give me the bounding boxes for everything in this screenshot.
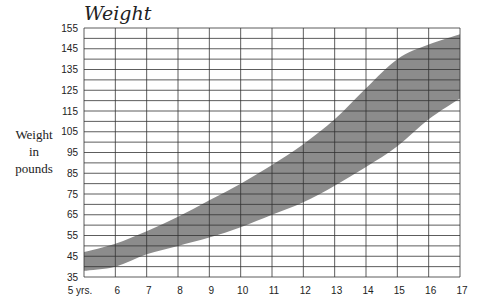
x-tick-label: 14 [362, 285, 374, 296]
x-tick-label: 5 yrs. [68, 285, 92, 296]
x-tick-label: 8 [177, 285, 183, 296]
x-tick-label: 12 [300, 285, 312, 296]
y-tick-label: 135 [61, 64, 78, 75]
y-tick-label: 155 [61, 23, 78, 34]
y-tick-label: 45 [67, 251, 79, 262]
y-tick-label: 125 [61, 85, 78, 96]
y-axis-ticks: 35455565758595105115125135145155 [61, 23, 78, 283]
x-tick-label: 16 [425, 285, 437, 296]
y-tick-label: 145 [61, 43, 78, 54]
x-tick-label: 13 [331, 285, 343, 296]
x-tick-label: 6 [115, 285, 121, 296]
y-tick-label: 85 [67, 168, 79, 179]
y-tick-label: 95 [67, 147, 79, 158]
x-tick-label: 9 [209, 285, 215, 296]
x-tick-label: 15 [394, 285, 406, 296]
y-tick-label: 35 [67, 272, 79, 283]
chart-plot: 35455565758595105115125135145155 5 yrs.6… [0, 0, 488, 306]
y-tick-label: 75 [67, 189, 79, 200]
y-tick-label: 65 [67, 209, 79, 220]
y-tick-label: 55 [67, 230, 79, 241]
x-tick-label: 17 [456, 285, 468, 296]
x-axis-ticks: 5 yrs.67891011121314151617 [68, 285, 468, 296]
x-tick-label: 7 [146, 285, 152, 296]
x-tick-label: 10 [237, 285, 249, 296]
y-tick-label: 115 [62, 106, 78, 117]
y-tick-label: 105 [61, 126, 78, 137]
x-tick-label: 11 [269, 285, 280, 296]
